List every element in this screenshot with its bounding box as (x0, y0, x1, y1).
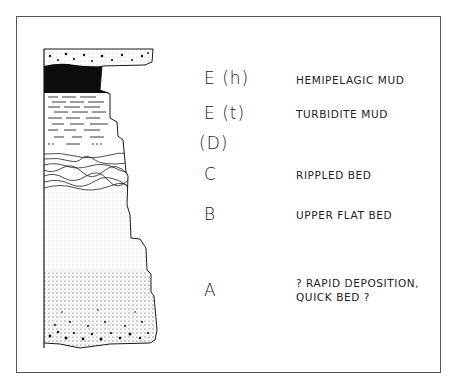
interval-code-b: B (204, 206, 216, 223)
interval-desc-e-h: HEMIPELAGIC MUD (296, 73, 404, 87)
unit-c-ripples (44, 153, 128, 190)
interval-desc-b: UPPER FLAT BED (296, 208, 392, 222)
interval-desc-e-t: TURBIDITE MUD (296, 107, 388, 121)
interval-code-c: C (204, 166, 217, 183)
unit-e-turbidite-mud (48, 97, 108, 144)
interval-desc-c: RIPPLED BED (296, 168, 372, 182)
interval-code-d: (D) (199, 135, 228, 152)
interval-code-a: A (204, 282, 217, 299)
stratigraphic-column (0, 0, 456, 387)
interval-desc-a: ? RAPID DEPOSITION, QUICK BED ? (296, 276, 419, 304)
interval-code-e-h: E (h) (204, 70, 249, 87)
interval-code-e-t: E (t) (204, 105, 245, 122)
unit-a-graded-sand (44, 190, 164, 350)
